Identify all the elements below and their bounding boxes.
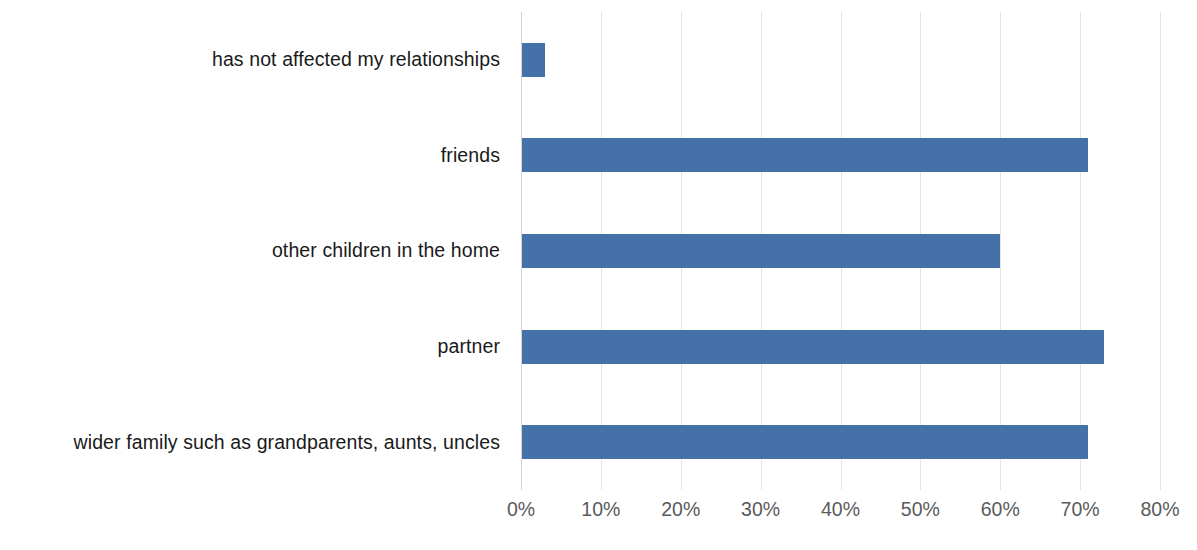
category-label: has not affected my relationships [212,48,500,71]
tick-label: 20% [661,498,700,521]
gridline [1160,12,1161,490]
gridline [1000,12,1001,490]
bar [521,138,1088,172]
tick-label: 30% [741,498,780,521]
category-label-row: friends [0,108,512,204]
gridline [1080,12,1081,490]
tick-label: 50% [901,498,940,521]
tick-label: 60% [981,498,1020,521]
category-label-row: has not affected my relationships [0,12,512,108]
bar [521,425,1088,459]
category-label: friends [441,144,500,167]
category-label-row: other children in the home [0,203,512,299]
tick-label: 40% [821,498,860,521]
bar-chart: has not affected my relationships friend… [0,0,1197,550]
category-label-row: partner [0,299,512,395]
category-label-row: wider family such as grandparents, aunts… [0,394,512,490]
bar [521,43,545,77]
category-label: other children in the home [272,239,500,262]
value-axis: 0% 10% 20% 30% 40% 50% 60% 70% 80% [521,498,1161,538]
category-axis: has not affected my relationships friend… [0,12,512,490]
tick-label: 80% [1140,498,1179,521]
category-label: wider family such as grandparents, aunts… [74,431,500,454]
category-label: partner [438,335,501,358]
bar [521,234,1000,268]
plot-area [521,12,1161,490]
tick-label: 70% [1061,498,1100,521]
bar [521,330,1104,364]
tick-label: 0% [507,498,535,521]
value-axis-line [521,12,522,490]
tick-label: 10% [581,498,620,521]
